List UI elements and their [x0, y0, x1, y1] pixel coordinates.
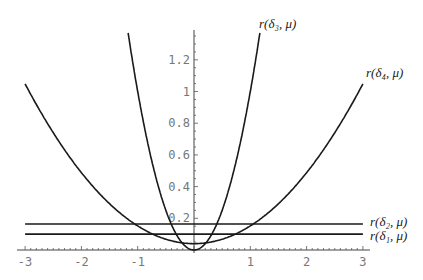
y-tick-label: 0.4: [168, 180, 190, 194]
x-tick-label: 3: [359, 255, 366, 269]
x-tick-label: 1: [247, 255, 254, 269]
label-delta1: r(δ₁, μ): [370, 228, 407, 243]
x-tick-label: -3: [18, 255, 32, 269]
label-delta3: r(δ₃, μ): [259, 16, 296, 31]
x-tick-label: -2: [74, 255, 88, 269]
plot-area: -3-2-11230.20.40.60.811.2r(δ₃, μ)r(δ₄, μ…: [0, 0, 423, 280]
y-tick-label: 0.6: [168, 148, 190, 162]
x-tick-label: 2: [303, 255, 310, 269]
risk-function-chart: -3-2-11230.20.40.60.811.2r(δ₃, μ)r(δ₄, μ…: [0, 0, 423, 280]
y-tick-label: 1.2: [168, 53, 190, 67]
label-delta4: r(δ₄, μ): [366, 65, 403, 80]
x-tick-label: -1: [130, 255, 144, 269]
label-delta2: r(δ₂, μ): [370, 214, 407, 229]
y-tick-label: 0.8: [168, 116, 190, 130]
y-tick-label: 1: [183, 85, 190, 99]
